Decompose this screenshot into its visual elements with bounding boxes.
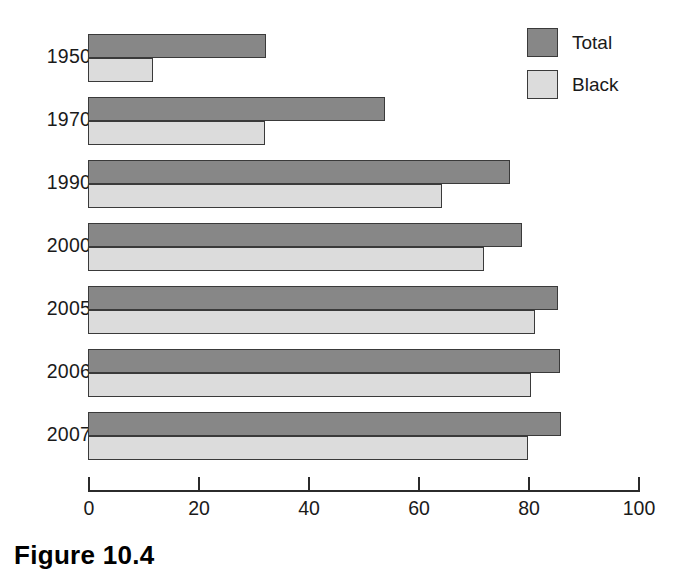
figure-container: 1950197019902000200520062007 02040608010… [0,0,685,583]
x-tick-mark [638,477,640,492]
legend-item-total: Total [527,28,677,70]
bar-black-2005 [88,310,535,334]
bar-total-2005 [88,286,558,310]
x-tick-label: 80 [499,497,559,520]
x-tick-mark [88,477,90,492]
bar-group: 2007 [0,412,685,461]
legend-label-black: Black [572,74,618,96]
category-label: 2006 [21,360,91,383]
legend-item-black: Black [527,70,677,112]
x-tick-label: 0 [59,497,119,520]
x-tick-label: 40 [279,497,339,520]
x-tick-mark [528,477,530,492]
bar-total-2007 [88,412,561,436]
bar-total-1990 [88,160,510,184]
x-tick-mark [418,477,420,492]
x-tick-label: 20 [169,497,229,520]
category-label: 2007 [21,423,91,446]
category-label: 2000 [21,234,91,257]
category-label: 1970 [21,108,91,131]
x-tick-mark [198,477,200,492]
figure-caption: Figure 10.4 [14,540,155,571]
bar-black-1970 [88,121,265,145]
bar-group: 2000 [0,223,685,272]
bar-total-1970 [88,97,385,121]
bar-group: 2006 [0,349,685,398]
legend-swatch-black [527,70,558,99]
x-tick-label: 100 [609,497,669,520]
legend-swatch-total [527,28,558,57]
bar-total-2006 [88,349,560,373]
x-axis-line [88,490,639,492]
bar-black-1990 [88,184,442,208]
category-label: 1990 [21,171,91,194]
legend-label-total: Total [572,32,612,54]
bar-total-1950 [88,34,266,58]
chart-legend: TotalBlack [527,28,677,112]
bar-black-1950 [88,58,153,82]
category-label: 1950 [21,45,91,68]
bar-total-2000 [88,223,522,247]
bar-black-2007 [88,436,528,460]
category-label: 2005 [21,297,91,320]
x-tick-label: 60 [389,497,449,520]
bar-group: 2005 [0,286,685,335]
bar-group: 1990 [0,160,685,209]
x-tick-mark [308,477,310,492]
bar-black-2000 [88,247,484,271]
bar-black-2006 [88,373,531,397]
